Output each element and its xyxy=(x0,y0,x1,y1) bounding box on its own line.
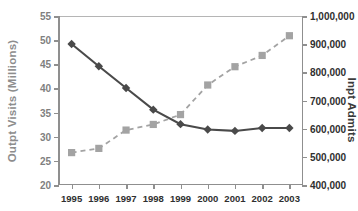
left-tick xyxy=(54,185,59,187)
left-tick-label: 25 xyxy=(40,155,51,166)
data-point-square xyxy=(286,32,293,39)
left-tick-label: 50 xyxy=(40,35,51,46)
left-tick-label: 40 xyxy=(40,83,51,94)
data-point-square xyxy=(177,111,184,118)
x-tick-label: 1998 xyxy=(143,193,164,204)
right-tick xyxy=(302,185,307,187)
data-point-square xyxy=(95,145,102,152)
right-tick-label: 400,000 xyxy=(310,180,346,191)
data-point-square xyxy=(150,121,157,128)
right-tick-label: 500,000 xyxy=(310,151,346,162)
x-tick-label: 2001 xyxy=(224,193,245,204)
data-point-square xyxy=(231,63,238,70)
right-tick-label: 900,000 xyxy=(310,39,346,50)
data-point-square xyxy=(68,149,75,156)
left-tick-label: 55 xyxy=(40,11,51,22)
right-tick-label: 700,000 xyxy=(310,95,346,106)
x-tick-label: 2002 xyxy=(252,193,273,204)
data-point-square xyxy=(204,81,211,88)
data-point-square xyxy=(259,52,266,59)
left-tick-label: 45 xyxy=(40,59,51,70)
series-layer xyxy=(58,16,303,185)
right-tick-label: 800,000 xyxy=(310,67,346,78)
right-axis-title: Inpt Admits xyxy=(346,30,358,190)
left-tick-label: 20 xyxy=(40,180,51,191)
left-axis-title: Outpt Visits (Millions) xyxy=(6,21,18,181)
series-line-square xyxy=(72,36,290,153)
right-tick-label: 1,000,000 xyxy=(310,11,355,22)
data-point-diamond xyxy=(176,120,184,128)
left-tick-label: 30 xyxy=(40,131,51,142)
x-tick-label: 2000 xyxy=(197,193,218,204)
x-tick-label: 2003 xyxy=(279,193,300,204)
x-tick-label: 1999 xyxy=(170,193,191,204)
x-tick-label: 1995 xyxy=(61,193,82,204)
plot-area: 2025303540455055 400,000500,000600,00070… xyxy=(58,16,303,185)
data-point-diamond xyxy=(258,124,266,132)
x-tick-label: 1997 xyxy=(115,193,136,204)
right-tick-label: 600,000 xyxy=(310,123,346,134)
data-point-diamond xyxy=(231,127,239,135)
left-tick-label: 35 xyxy=(40,107,51,118)
data-point-diamond xyxy=(204,125,212,133)
data-point-square xyxy=(122,126,129,133)
x-tick-label: 1996 xyxy=(88,193,109,204)
data-point-diamond xyxy=(285,124,293,132)
